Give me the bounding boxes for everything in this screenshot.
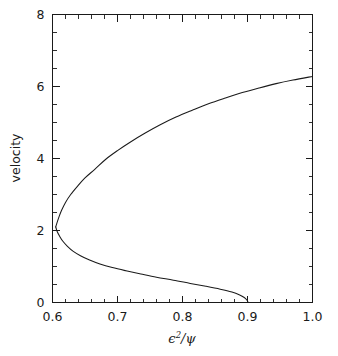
- x-tick-labels: 0.60.70.80.91.0: [43, 309, 323, 324]
- y-tick-label: 0: [37, 295, 45, 310]
- y-tick-label: 2: [37, 223, 45, 238]
- data-curves: [56, 76, 313, 302]
- y-tick-label: 8: [37, 7, 45, 22]
- chart-figure: 0.60.70.80.91.0 02468 velocity ϵ2/ψ: [0, 0, 338, 356]
- axes-frame: [53, 15, 313, 303]
- x-axis-title: ϵ2/ψ: [168, 330, 196, 346]
- x-tick-label: 0.7: [108, 309, 128, 324]
- plot-svg: 0.60.70.80.91.0 02468 velocity ϵ2/ψ: [0, 0, 338, 356]
- x-tick-label: 0.9: [238, 309, 258, 324]
- svg-text:ϵ2/ψ: ϵ2/ψ: [168, 330, 196, 346]
- y-tick-label: 6: [37, 79, 45, 94]
- x-tick-label: 1.0: [303, 309, 323, 324]
- curve-lower-branch: [56, 227, 248, 303]
- y-tick-labels: 02468: [37, 7, 45, 310]
- y-tick-label: 4: [37, 151, 45, 166]
- x-axis-title-psi: ψ: [185, 331, 196, 346]
- plot-frame: [53, 15, 313, 303]
- y-axis-title: velocity: [8, 133, 23, 182]
- axis-ticks: [53, 15, 313, 303]
- x-tick-label: 0.6: [43, 309, 63, 324]
- curve-upper-branch: [56, 76, 313, 226]
- x-tick-label: 0.8: [173, 309, 193, 324]
